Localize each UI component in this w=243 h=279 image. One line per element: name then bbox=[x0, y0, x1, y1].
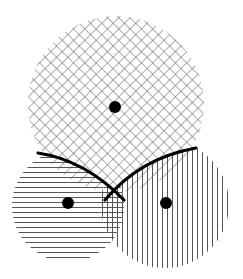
top-site-dot bbox=[109, 101, 121, 113]
voronoi-regions-diagram bbox=[0, 0, 243, 279]
left-site-dot bbox=[62, 197, 74, 209]
right-site-dot bbox=[160, 197, 172, 209]
